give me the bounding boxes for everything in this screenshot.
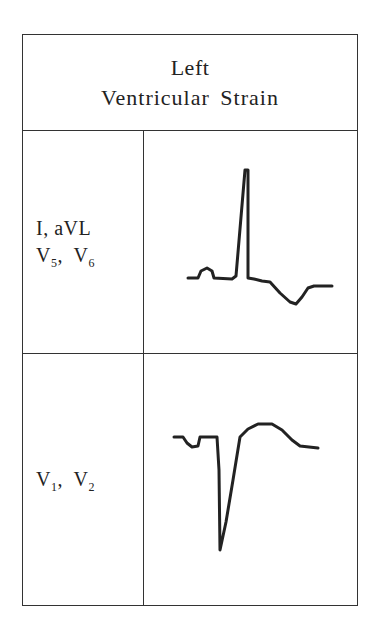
ecg-waveforms [0, 0, 378, 638]
ecg-waveform-septal [174, 424, 318, 550]
ecg-waveform-lateral [188, 170, 332, 304]
